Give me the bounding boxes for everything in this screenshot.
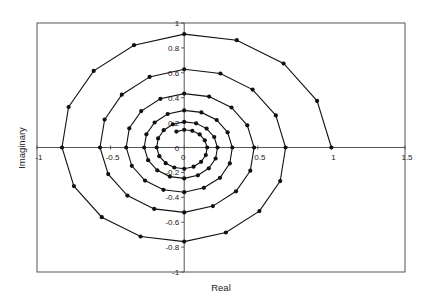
data-point-marker xyxy=(230,145,234,149)
data-point-marker xyxy=(182,128,186,132)
x-tick-label: 1.5 xyxy=(401,153,413,162)
data-point-marker xyxy=(158,97,162,101)
data-point-marker xyxy=(146,158,150,162)
data-point-marker xyxy=(205,127,209,131)
data-point-marker xyxy=(155,168,159,172)
data-point-marker xyxy=(199,160,203,164)
data-point-marker xyxy=(166,112,170,116)
data-point-marker xyxy=(132,43,136,47)
data-point-marker xyxy=(72,184,76,188)
data-point-marker xyxy=(182,108,186,112)
data-point-marker xyxy=(215,145,219,149)
data-point-marker xyxy=(106,172,110,176)
data-point-marker xyxy=(125,194,129,198)
data-point-marker xyxy=(120,93,124,97)
data-point-marker xyxy=(139,234,143,238)
y-tick-label: -1 xyxy=(172,268,180,277)
data-point-marker xyxy=(103,118,107,122)
y-tick-label: -0.8 xyxy=(165,243,179,252)
y-tick-label: 0 xyxy=(175,144,180,153)
data-point-marker xyxy=(257,209,261,213)
data-point-marker xyxy=(207,95,211,99)
data-point-marker xyxy=(144,132,148,136)
data-point-marker xyxy=(229,105,233,109)
data-point-marker xyxy=(203,138,207,142)
y-axis-title: Imaginary xyxy=(16,127,27,169)
y-tick-label: 1 xyxy=(175,19,180,28)
data-point-marker xyxy=(164,161,168,165)
data-point-marker xyxy=(228,161,232,165)
data-point-marker xyxy=(204,153,208,157)
data-point-marker xyxy=(224,230,228,234)
data-point-marker xyxy=(251,88,255,92)
data-point-marker xyxy=(92,69,96,73)
x-axis-title: Real xyxy=(211,282,231,293)
data-point-marker xyxy=(60,145,64,149)
data-point-marker xyxy=(98,145,102,149)
data-point-marker xyxy=(182,190,186,194)
data-point-marker xyxy=(284,145,288,149)
data-point-marker xyxy=(182,32,186,36)
data-point-marker xyxy=(182,176,186,180)
data-point-marker xyxy=(248,169,252,173)
x-tick-label: 1 xyxy=(331,153,336,162)
data-point-marker xyxy=(329,145,333,149)
data-point-marker xyxy=(161,188,165,192)
data-point-marker xyxy=(127,126,131,130)
data-point-marker xyxy=(196,173,200,177)
data-point-marker xyxy=(214,156,218,160)
data-point-marker xyxy=(152,207,156,211)
data-point-marker xyxy=(282,61,286,65)
data-point-marker xyxy=(182,210,186,214)
data-point-marker xyxy=(143,179,147,183)
data-point-marker xyxy=(234,189,238,193)
data-point-marker xyxy=(182,120,186,124)
data-point-marker xyxy=(235,38,239,42)
data-point-marker xyxy=(182,240,186,244)
data-point-marker xyxy=(198,132,202,136)
data-point-marker xyxy=(153,120,157,124)
data-point-marker xyxy=(199,110,203,114)
data-point-marker xyxy=(226,130,230,134)
data-point-marker xyxy=(315,99,319,103)
data-point-marker xyxy=(252,145,256,149)
data-point-marker xyxy=(274,113,278,117)
y-tick-label: -0.2 xyxy=(165,168,179,177)
data-point-marker xyxy=(190,129,194,133)
data-point-marker xyxy=(155,145,159,149)
data-point-marker xyxy=(168,175,172,179)
data-point-marker xyxy=(156,136,160,140)
x-tick-label: 0.5 xyxy=(254,153,266,162)
y-tick-label: -0.4 xyxy=(165,193,179,202)
data-point-marker xyxy=(278,179,282,183)
data-point-marker xyxy=(218,176,222,180)
data-point-marker xyxy=(172,165,176,169)
data-point-marker xyxy=(211,204,215,208)
data-point-marker xyxy=(139,109,143,113)
data-point-marker xyxy=(205,145,209,149)
data-point-marker xyxy=(157,154,161,158)
spiral-chart: -1-0.500.511.5-1-0.8-0.6-0.4-0.200.20.40… xyxy=(0,0,430,299)
data-point-marker xyxy=(194,121,198,125)
data-point-marker xyxy=(142,145,146,149)
data-point-marker xyxy=(124,145,128,149)
data-point-marker xyxy=(202,186,206,190)
x-tick-label: -1 xyxy=(35,153,43,162)
data-point-marker xyxy=(148,75,152,79)
data-point-marker xyxy=(218,71,222,75)
data-point-marker xyxy=(245,123,249,127)
data-point-marker xyxy=(67,105,71,109)
data-point-marker xyxy=(171,122,175,126)
data-point-marker xyxy=(100,215,104,219)
data-point-marker xyxy=(212,135,216,139)
data-point-marker xyxy=(207,166,211,170)
x-tick-label: 0 xyxy=(181,153,186,162)
data-point-marker xyxy=(192,165,196,169)
y-tick-label: 0.8 xyxy=(168,44,180,53)
data-point-marker xyxy=(162,128,166,132)
data-point-marker xyxy=(182,167,186,171)
data-point-marker xyxy=(174,130,178,134)
x-tick-label: -0.5 xyxy=(106,153,120,162)
data-point-marker xyxy=(182,92,186,96)
data-point-marker xyxy=(130,164,134,168)
